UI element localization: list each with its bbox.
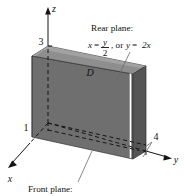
leader-line-front-plane bbox=[78, 151, 92, 182]
coordinate-diagram: z y x 3 1 4 D Rear plane: x = y 2 , or y… bbox=[0, 0, 184, 196]
rear-plane-eq-lhs: x bbox=[87, 40, 93, 50]
tick-label-z-3: 3 bbox=[39, 36, 44, 47]
rear-plane-heading: Rear plane: bbox=[91, 23, 133, 33]
tick-label-y-4: 4 bbox=[154, 131, 159, 142]
region-label-d: D bbox=[85, 67, 94, 78]
z-axis-arrowhead bbox=[45, 7, 51, 15]
x-axis-line bbox=[12, 143, 30, 163]
figure-canvas: z y x 3 1 4 D Rear plane: x = y 2 , or y… bbox=[0, 0, 184, 196]
rear-plane-eq-or: , or bbox=[111, 40, 123, 50]
y-axis-line bbox=[146, 151, 167, 157]
rear-plane-eq-tail-2x: 2x bbox=[142, 40, 152, 50]
rear-plane-eq-numerator: y bbox=[102, 37, 108, 47]
y-axis-arrowhead bbox=[163, 155, 172, 161]
front-plane-heading: Front plane: bbox=[28, 184, 73, 194]
rear-plane-eq-tail-y: y bbox=[125, 40, 131, 50]
z-axis-label: z bbox=[51, 3, 56, 14]
x-axis-label: x bbox=[7, 173, 13, 184]
rear-plane-eq-equals: = bbox=[94, 40, 99, 50]
rear-plane-eq-tail-equals: = bbox=[132, 40, 137, 50]
y-axis-label: y bbox=[173, 154, 179, 165]
rear-plane-eq-denominator: 2 bbox=[103, 48, 108, 58]
tick-label-x-1: 1 bbox=[24, 122, 29, 133]
x-axis-arrowhead bbox=[8, 161, 17, 168]
